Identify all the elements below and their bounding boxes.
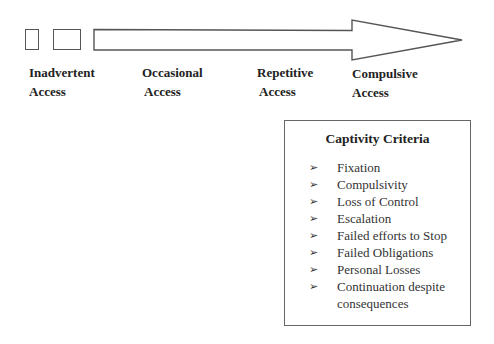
- stage-label-occasional: Occasional Access: [142, 63, 203, 101]
- criteria-item: ➢Fixation: [309, 159, 449, 176]
- criteria-item: ➢Loss of Control: [309, 193, 449, 210]
- criteria-list: ➢Fixation ➢Compulsivity ➢Loss of Control…: [309, 159, 449, 312]
- criteria-item: ➢Escalation: [309, 210, 449, 227]
- criteria-item: ➢Compulsivity: [309, 176, 449, 193]
- stage-label-inadvertent: Inadvertent Access: [29, 63, 95, 101]
- stage-label-repetitive: Repetitive Access: [257, 63, 313, 101]
- captivity-criteria-box: Captivity Criteria ➢Fixation ➢Compulsivi…: [284, 120, 471, 326]
- arrow-bullet-icon: ➢: [309, 278, 318, 295]
- stage-label-compulsive: Compulsive Access: [352, 64, 418, 102]
- criteria-item: ➢Failed Obligations: [309, 244, 449, 261]
- criteria-item: ➢Continuation despite consequences: [309, 278, 449, 312]
- criteria-title: Captivity Criteria: [285, 131, 470, 147]
- arrow-bullet-icon: ➢: [309, 193, 318, 210]
- criteria-item: ➢Failed efforts to Stop: [309, 227, 449, 244]
- arrow-bullet-icon: ➢: [309, 244, 318, 261]
- arrow-bullet-icon: ➢: [309, 176, 318, 193]
- criteria-item: ➢Personal Losses: [309, 261, 449, 278]
- arrow-bullet-icon: ➢: [309, 159, 318, 176]
- arrow-bullet-icon: ➢: [309, 227, 318, 244]
- arrow-bullet-icon: ➢: [309, 261, 318, 278]
- arrow-bullet-icon: ➢: [309, 210, 318, 227]
